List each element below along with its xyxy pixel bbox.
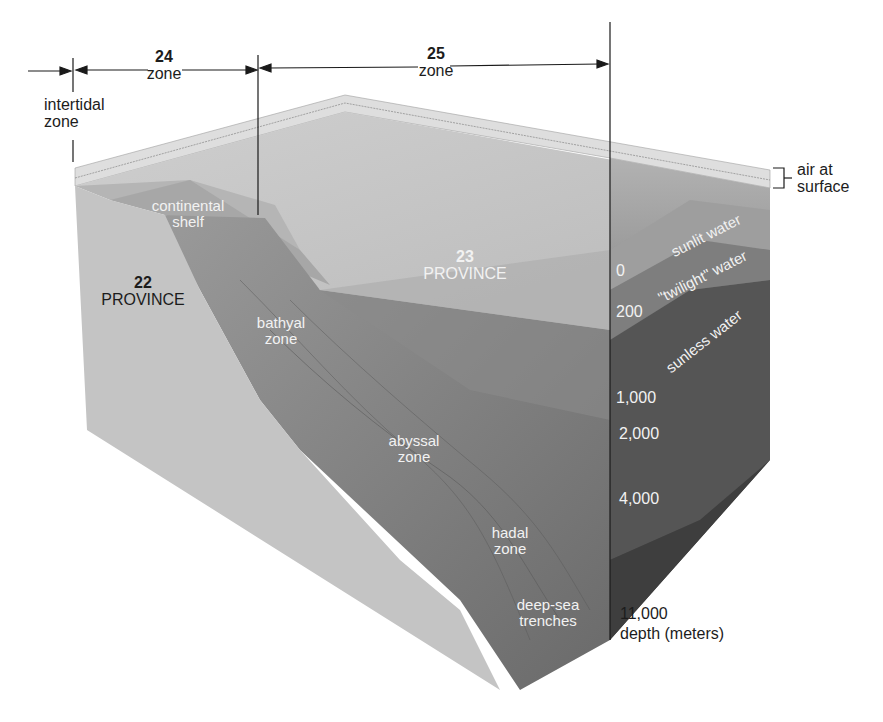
ocean-block-illustration [0,0,883,722]
depth-tick-4000: 4,000 [619,490,659,507]
bathyal-line1: bathyal [246,315,316,331]
continental-shelf-label: continental shelf [138,198,238,230]
air-label-line2: surface [797,178,849,195]
depth-tick-200: 200 [616,303,643,320]
province-23-number: 23 [410,248,520,265]
continental-shelf-line1: continental [138,198,238,214]
intertidal-label-line2: zone [44,113,104,130]
trenches-line1: deep-sea [508,597,588,613]
zone-25-number: 25 [412,45,460,62]
depth-tick-2000: 2,000 [619,425,659,442]
abyssal-line1: abyssal [374,433,454,449]
zone-25-label: 25 zone [412,45,460,80]
zone-25-text: zone [412,62,460,79]
province-22-text: PROVINCE [88,291,198,308]
zone-24-text: zone [144,65,184,82]
zone-24-label: 24 zone [144,48,184,83]
intertidal-label-line1: intertidal [44,96,104,113]
deep-sea-trenches-label: deep-sea trenches [508,597,588,629]
province-23-text: PROVINCE [410,265,520,282]
abyssal-zone-label: abyssal zone [374,433,454,465]
air-label-line1: air at [797,161,849,178]
air-at-surface-label: air at surface [797,161,849,196]
depth-unit-label: depth (meters) [620,625,724,642]
abyssal-line2: zone [374,449,454,465]
province-22-label: 22 PROVINCE [88,274,198,309]
continental-shelf-line2: shelf [138,214,238,230]
depth-tick-0: 0 [616,262,625,279]
zone-24-number: 24 [144,48,184,65]
depth-tick-1000: 1,000 [616,389,656,406]
ocean-zones-diagram: intertidal zone 24 zone 25 zone air at s… [0,0,883,722]
hadal-line2: zone [480,541,540,557]
trenches-line2: trenches [508,613,588,629]
intertidal-zone-label: intertidal zone [44,96,104,131]
depth-tick-11000: 11,000 [620,605,668,622]
hadal-line1: hadal [480,525,540,541]
province-22-number: 22 [88,274,198,291]
hadal-zone-label: hadal zone [480,525,540,557]
province-23-label: 23 PROVINCE [410,248,520,283]
bathyal-line2: zone [246,331,316,347]
bathyal-zone-label: bathyal zone [246,315,316,347]
